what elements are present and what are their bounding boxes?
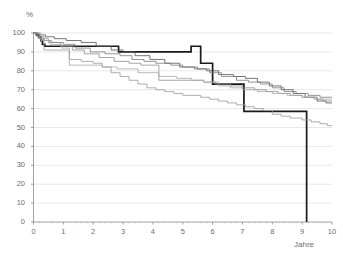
x-tick-label: 9	[294, 227, 310, 236]
y-tick-label: 40	[5, 141, 25, 150]
x-tick-label: 3	[115, 227, 131, 236]
y-tick-label: 50	[5, 123, 25, 132]
y-tick-label: 60	[5, 104, 25, 113]
x-tick-label: 7	[234, 227, 250, 236]
plot-area	[0, 0, 343, 263]
x-tick-label: 5	[175, 227, 191, 236]
y-tick-label: 10	[5, 198, 25, 207]
x-tick-label: 0	[26, 227, 42, 236]
x-tick-label: 8	[264, 227, 280, 236]
y-tick-label: 20	[5, 179, 25, 188]
survival-chart: % Jahre 0102030405060708090100 012345678…	[0, 0, 343, 263]
y-tick-label: 100	[5, 28, 25, 37]
y-tick-label: 80	[5, 66, 25, 75]
y-tick-label: 0	[5, 217, 25, 226]
y-tick-label: 90	[5, 47, 25, 56]
x-tick-label: 2	[85, 227, 101, 236]
y-tick-label: 70	[5, 85, 25, 94]
y-tick-label: 30	[5, 160, 25, 169]
series-line-curve-gray-dark	[34, 33, 333, 103]
x-tick-label: 1	[55, 227, 71, 236]
x-tick-label: 6	[205, 227, 221, 236]
x-tick-label: 10	[324, 227, 340, 236]
x-tick-label: 4	[145, 227, 161, 236]
